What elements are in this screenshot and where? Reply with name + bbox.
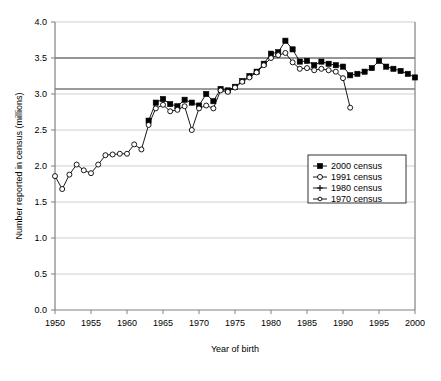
data-point-marker (369, 65, 374, 70)
data-point-marker (333, 69, 338, 74)
data-point-marker (261, 63, 266, 68)
legend-label: 1991 census (331, 172, 383, 182)
data-point-marker (398, 68, 403, 73)
y-tick-label: 2.5 (34, 125, 47, 135)
data-point-marker (283, 38, 288, 43)
data-point-marker (348, 105, 353, 110)
y-tick-label: 0.5 (34, 269, 47, 279)
census-line-chart: 1950195519601965197019751980198519901995… (0, 0, 441, 381)
data-point-marker (67, 172, 72, 177)
data-point-marker (340, 64, 345, 69)
data-point-marker (225, 89, 230, 94)
data-point-marker (189, 128, 194, 133)
x-axis-title: Year of birth (211, 344, 259, 354)
x-tick-label: 2000 (405, 318, 425, 328)
data-point-marker (290, 60, 295, 65)
data-point-marker (160, 96, 165, 101)
y-tick-label: 0.0 (34, 305, 47, 315)
x-tick-label: 1950 (45, 318, 65, 328)
data-point-marker (89, 171, 94, 176)
data-point-marker (312, 63, 317, 68)
data-point-marker (175, 107, 180, 112)
data-point-marker (182, 104, 187, 109)
data-point-marker (182, 97, 187, 102)
legend-label: 1970 census (331, 194, 383, 204)
data-point-marker (117, 151, 122, 156)
data-point-marker (153, 106, 158, 111)
x-tick-label: 1965 (153, 318, 173, 328)
chart-legend: 2000 census1991 census1980 census1970 ce… (308, 155, 406, 204)
data-point-marker (362, 69, 367, 74)
data-point-marker (110, 152, 115, 157)
x-tick-label: 1975 (225, 318, 245, 328)
x-tick-label: 1985 (297, 318, 317, 328)
data-point-marker (269, 56, 274, 61)
y-tick-label: 2.0 (34, 161, 47, 171)
data-point-marker (197, 106, 202, 111)
data-point-marker (341, 76, 346, 81)
x-tick-label: 1960 (117, 318, 137, 328)
data-point-marker (233, 85, 238, 90)
data-point-marker (304, 58, 309, 63)
y-axis-tick-labels: 0.00.51.01.52.02.53.03.54.0 (34, 17, 47, 315)
data-point-marker (132, 142, 137, 147)
data-point-marker (317, 163, 322, 168)
data-point-marker (297, 59, 302, 64)
data-point-marker (318, 175, 323, 180)
data-point-marker (81, 168, 86, 173)
data-point-marker (189, 100, 194, 105)
data-point-marker (348, 73, 353, 78)
x-axis-tick-labels: 1950195519601965197019751980198519901995… (45, 318, 425, 328)
data-point-marker (318, 197, 322, 201)
x-tick-label: 1955 (81, 318, 101, 328)
data-point-marker (283, 50, 288, 55)
data-point-marker (247, 75, 252, 80)
legend-label: 2000 census (331, 161, 383, 171)
chart-container: 1950195519601965197019751980198519901995… (0, 0, 441, 381)
data-point-marker (96, 162, 101, 167)
y-tick-label: 3.5 (34, 53, 47, 63)
data-point-marker (103, 153, 108, 158)
data-point-marker (290, 47, 295, 52)
data-point-marker (168, 101, 173, 106)
data-point-marker (376, 58, 381, 63)
data-point-marker (319, 66, 324, 71)
legend-label: 1980 census (331, 183, 383, 193)
data-point-marker (305, 66, 310, 71)
data-point-marker (405, 71, 410, 76)
data-point-marker (384, 64, 389, 69)
data-point-marker (139, 147, 144, 152)
x-tick-label: 1990 (333, 318, 353, 328)
y-axis-title: Number reported in census (millions) (14, 92, 24, 239)
y-tick-label: 1.5 (34, 197, 47, 207)
data-point-marker (355, 71, 360, 76)
x-tick-label: 1970 (189, 318, 209, 328)
data-point-marker (319, 59, 324, 64)
y-tick-label: 4.0 (34, 17, 47, 27)
data-point-marker (53, 174, 58, 179)
data-point-marker (297, 66, 302, 71)
data-point-marker (254, 70, 259, 75)
data-point-marker (74, 162, 79, 167)
data-point-marker (153, 100, 158, 105)
data-point-marker (412, 75, 417, 80)
data-point-marker (211, 106, 216, 111)
x-tick-label: 1980 (261, 318, 281, 328)
data-point-marker (391, 66, 396, 71)
data-point-marker (204, 103, 209, 108)
y-tick-label: 3.0 (34, 89, 47, 99)
data-point-marker (204, 91, 209, 96)
data-point-marker (326, 68, 331, 73)
data-point-marker (240, 79, 245, 84)
data-point-marker (161, 102, 166, 107)
y-tick-label: 1.0 (34, 233, 47, 243)
data-point-marker (326, 61, 331, 66)
data-point-marker (276, 53, 281, 58)
data-point-marker (218, 88, 223, 93)
data-point-marker (333, 63, 338, 68)
data-point-marker (125, 151, 130, 156)
data-point-marker (312, 68, 317, 73)
data-point-marker (168, 109, 173, 114)
data-point-marker (146, 122, 151, 127)
x-tick-label: 1995 (369, 318, 389, 328)
